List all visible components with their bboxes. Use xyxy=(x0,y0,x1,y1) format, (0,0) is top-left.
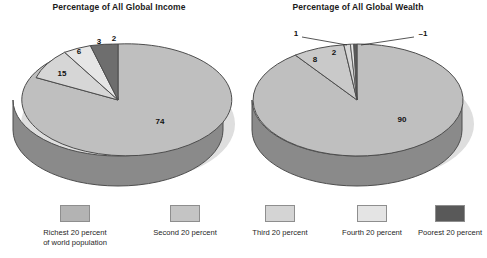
pie-value-richest-income: 74 xyxy=(156,117,165,126)
pie-value-poorest-income: 2 xyxy=(112,34,117,43)
pie-chart-income: 74 15 6 3 2 xyxy=(0,12,238,200)
pie-value-fourth-wealth: 1 xyxy=(294,29,299,38)
pie-value-second-income: 15 xyxy=(58,69,67,78)
pie-top-face xyxy=(22,44,232,156)
pie-value-richest-wealth: 90 xyxy=(398,115,407,124)
legend-swatch-second xyxy=(170,205,200,222)
chart-panel-wealth: Percentage of All Global Wealth 90 8 2 1 xyxy=(239,0,477,200)
legend-item-second[interactable]: Second 20 percent xyxy=(135,205,235,238)
legend-swatch-richest xyxy=(60,205,90,222)
chart-panel-income: Percentage of All Global Income 74 15 6 … xyxy=(0,0,238,200)
pie-value-second-wealth: 8 xyxy=(313,55,318,64)
legend-swatch-third xyxy=(265,205,295,222)
legend-label-poorest: Poorest 20 percent xyxy=(398,228,487,238)
legend-item-richest[interactable]: Richest 20 percent of world population xyxy=(20,205,130,247)
legend-label-second: Second 20 percent xyxy=(135,228,235,238)
pie-value-poorest-wealth: –1 xyxy=(419,29,428,38)
pie-value-fourth-income: 3 xyxy=(97,37,102,46)
legend-label-third: Third 20 percent xyxy=(233,228,327,238)
pie-value-third-wealth: 2 xyxy=(332,48,337,57)
pie-slice-richest-wealth[interactable] xyxy=(253,44,463,156)
legend-swatch-fourth xyxy=(357,205,387,222)
legend-item-third[interactable]: Third 20 percent xyxy=(233,205,327,238)
pie-top-face xyxy=(253,44,463,156)
legend-label-richest: Richest 20 percent of world population xyxy=(20,228,130,247)
legend-item-poorest[interactable]: Poorest 20 percent xyxy=(398,205,487,238)
legend: Richest 20 percent of world population S… xyxy=(0,205,477,258)
legend-swatch-poorest xyxy=(435,205,465,222)
pie-chart-wealth: 90 8 2 1 –1 xyxy=(239,12,477,200)
pie-value-third-income: 6 xyxy=(77,47,82,56)
